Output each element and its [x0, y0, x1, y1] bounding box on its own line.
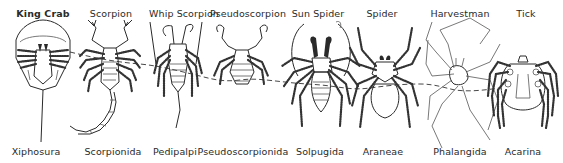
king-crab-illustration [16, 20, 70, 142]
common-name-label: Scorpion [90, 8, 132, 19]
sun-spider-illustration [282, 21, 360, 126]
common-name-label: Spider [366, 8, 397, 19]
arachnid-orders-figure: King Crab Scorpion Whip Scorpion Pseudos… [0, 0, 563, 163]
order-name-label: Phalangida [433, 146, 487, 157]
common-name-label: Pseudoscorpion [210, 8, 286, 19]
order-name-label: Araneae [363, 146, 403, 157]
common-name-label: Tick [516, 8, 535, 19]
tick-illustration [488, 56, 558, 128]
order-name-label: Scorpionida [84, 146, 141, 157]
common-name-label: Whip Scorpion [149, 8, 219, 19]
order-name-label: Pedipalpi [153, 146, 197, 157]
common-name-label: Sun Spider [292, 8, 345, 19]
order-name-label: Xiphosura [12, 146, 61, 157]
common-name-label: Harvestman [430, 8, 489, 19]
illustration-canvas [0, 0, 563, 163]
order-name-label: Solpugida [296, 146, 344, 157]
scorpion-illustration [70, 20, 140, 134]
pseudoscorpion-illustration [214, 25, 268, 84]
common-name-label: King Crab [16, 8, 69, 19]
spider-illustration [350, 28, 420, 128]
order-name-label: Pseudoscorpionida [198, 146, 289, 157]
whip-scorpion-illustration [150, 22, 202, 128]
order-name-label: Acarina [505, 146, 541, 157]
